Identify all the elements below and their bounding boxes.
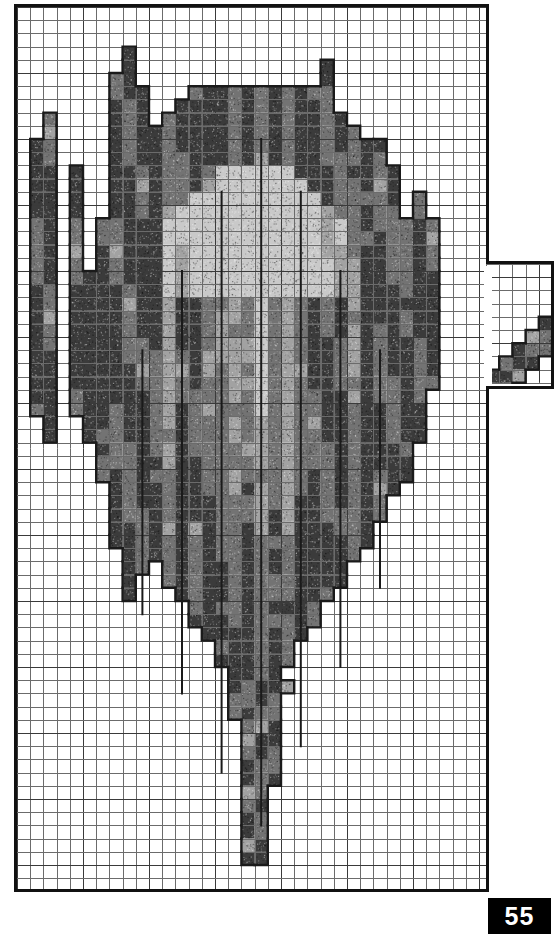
pattern-extension-frame <box>486 261 554 389</box>
frame-joint-mask <box>484 266 492 384</box>
pattern-grid-canvas <box>17 7 486 889</box>
page-number-badge: 55 <box>488 898 551 934</box>
pattern-chart-area <box>0 0 551 898</box>
pattern-grid-frame <box>14 4 489 892</box>
page-number-label: 55 <box>505 904 535 929</box>
pattern-extension-canvas <box>486 264 551 386</box>
